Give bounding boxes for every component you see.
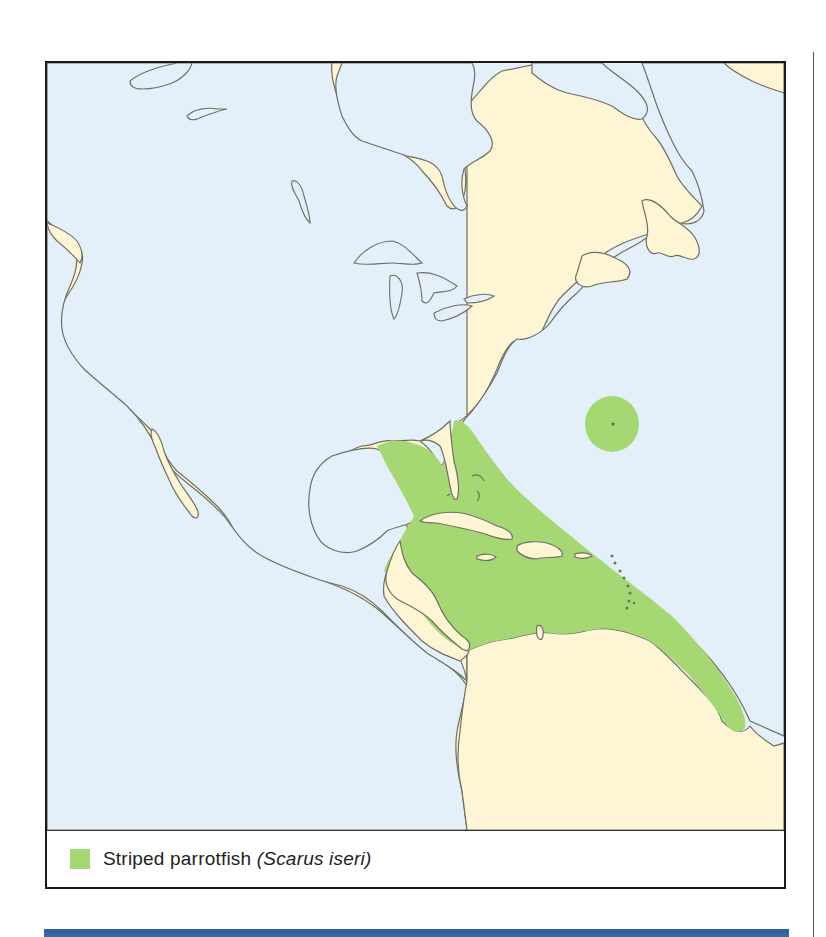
legend-label: Striped parrotfish (Scarus iseri) bbox=[103, 848, 371, 870]
puerto-rico bbox=[575, 553, 592, 558]
accent-bar bbox=[44, 929, 789, 937]
map-area bbox=[47, 63, 784, 831]
legend-swatch-range bbox=[70, 849, 90, 869]
bermuda-island bbox=[612, 423, 615, 426]
trinidad bbox=[536, 625, 543, 639]
legend-scientific-name: Scarus iseri bbox=[263, 848, 365, 869]
page-edge-rule bbox=[813, 52, 814, 937]
range-map-figure: Striped parrotfish (Scarus iseri) bbox=[45, 61, 786, 889]
map-legend: Striped parrotfish (Scarus iseri) bbox=[47, 831, 784, 887]
legend-common-name: Striped parrotfish bbox=[103, 848, 257, 869]
range-map bbox=[47, 63, 784, 830]
jamaica bbox=[477, 554, 496, 560]
